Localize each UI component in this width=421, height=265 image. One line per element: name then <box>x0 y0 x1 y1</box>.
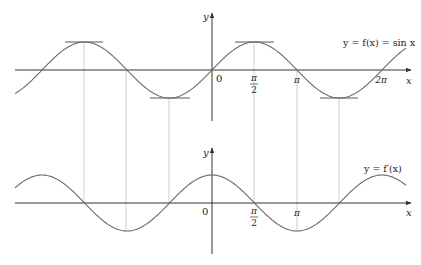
top-tick-pi-2-num: π <box>250 73 258 83</box>
top-graph: y x 0 π 2 π 2π y = f(x) = sin x <box>15 11 416 121</box>
top-tick-2pi: 2π <box>374 75 388 85</box>
top-origin-label: 0 <box>216 73 222 84</box>
derivative-diagram: y x 0 π 2 π 2π y = f(x) = sin x y x 0 π … <box>0 0 421 265</box>
bottom-tick-pi-2-num: π <box>250 206 258 216</box>
bottom-y-label: y <box>202 147 209 158</box>
top-function-label: y = f(x) = sin x <box>342 37 416 48</box>
bottom-function-label: y = f′(x) <box>363 163 402 174</box>
top-tick-pi: π <box>293 75 301 85</box>
bottom-tick-pi: π <box>293 208 301 218</box>
bottom-x-label: x <box>406 207 412 218</box>
top-tick-pi-2-den: 2 <box>251 85 257 95</box>
bottom-tick-pi-2-den: 2 <box>251 218 257 228</box>
top-x-label: x <box>406 75 412 86</box>
bottom-origin-label: 0 <box>202 206 208 217</box>
top-y-label: y <box>202 11 209 22</box>
bottom-graph: y x 0 π 2 π y = f′(x) <box>15 147 412 254</box>
